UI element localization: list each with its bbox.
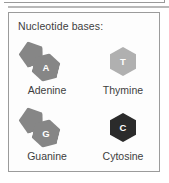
base-item-adenine[interactable]: A Adenine: [9, 39, 85, 105]
nucleotide-base-grid: A Adenine T Thymine G Guanine: [9, 39, 161, 171]
thymine-molecule-glyph: T: [85, 39, 161, 85]
base-item-thymine[interactable]: T Thymine: [85, 39, 161, 105]
guanine-letter: G: [33, 119, 59, 148]
base-row-purine-pyrimidine-top: A Adenine T Thymine: [9, 39, 161, 105]
base-item-cytosine[interactable]: C Cytosine: [85, 105, 161, 171]
top-rule-lower: [8, 6, 169, 8]
cytosine-label: Cytosine: [85, 150, 161, 162]
adenine-label: Adenine: [9, 84, 85, 96]
guanine-molecule-glyph: G: [9, 105, 85, 151]
base-row-purine-pyrimidine-bottom: G Guanine C Cytosine: [9, 105, 161, 171]
top-right-edge: [164, 0, 165, 3]
cytosine-letter: C: [110, 113, 136, 142]
guanine-label: Guanine: [9, 150, 85, 162]
cytosine-molecule-glyph: C: [85, 105, 161, 151]
nucleotide-legend-panel: Nucleotide bases: A Adenine T Thymine: [8, 12, 160, 172]
base-item-guanine[interactable]: G Guanine: [9, 105, 85, 171]
adenine-letter: A: [33, 53, 59, 82]
legend-title: Nucleotide bases:: [18, 20, 103, 32]
top-divider-strip: [0, 0, 169, 8]
thymine-label: Thymine: [85, 84, 161, 96]
thymine-letter: T: [110, 47, 136, 76]
top-rule-upper: [4, 2, 165, 3]
adenine-molecule-glyph: A: [9, 39, 85, 85]
